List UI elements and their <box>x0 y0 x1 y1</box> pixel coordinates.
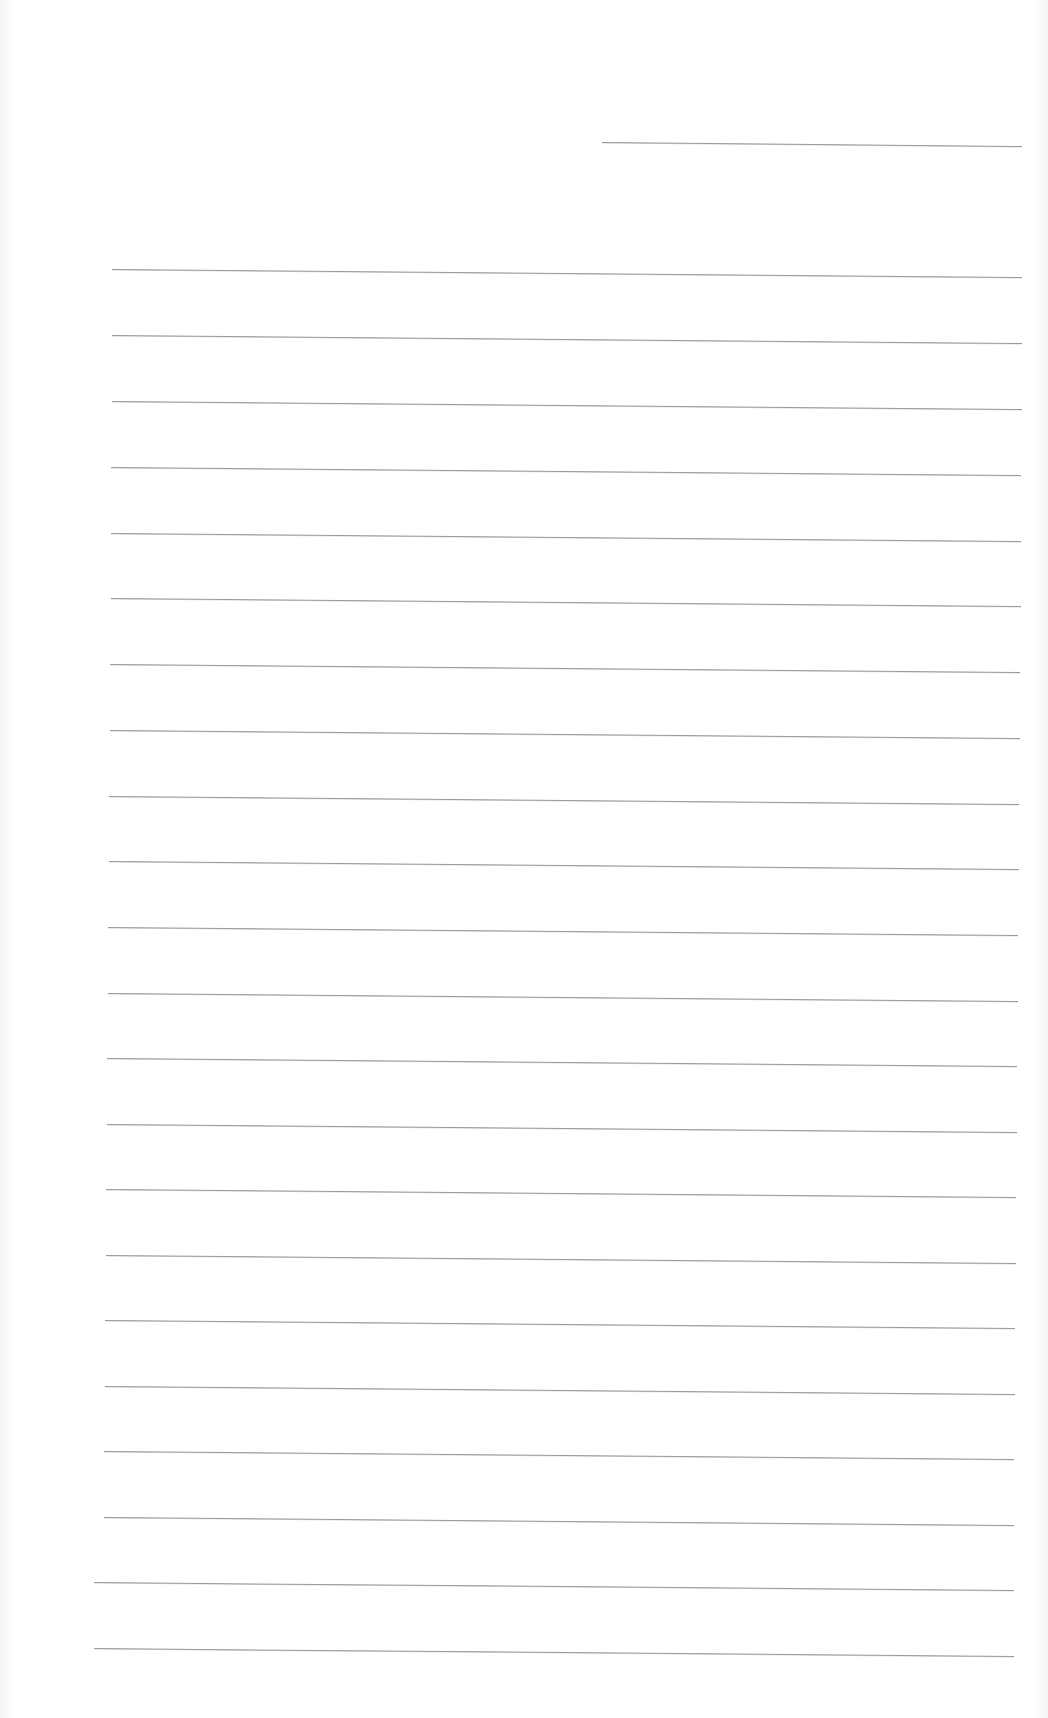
ruled-line <box>112 335 1022 344</box>
ruled-line <box>111 533 1021 542</box>
ruled-line <box>105 1320 1015 1329</box>
ruled-line <box>112 401 1022 410</box>
ruled-line <box>106 1255 1016 1264</box>
ruled-line <box>109 861 1019 870</box>
ruled-line <box>111 598 1021 607</box>
header-line <box>602 142 1022 147</box>
ruled-line <box>112 269 1022 278</box>
ruled-line <box>107 1058 1017 1067</box>
ruled-line <box>104 1451 1014 1460</box>
ruled-line <box>110 664 1020 673</box>
ruled-line <box>94 1648 1014 1657</box>
ruled-line <box>104 1517 1014 1526</box>
ruled-line <box>111 467 1021 476</box>
ruled-line <box>106 1189 1016 1198</box>
ruled-line <box>108 927 1018 936</box>
ruled-line <box>105 1386 1015 1395</box>
ruled-line <box>110 730 1020 739</box>
ruled-line <box>94 1582 1014 1591</box>
ruled-line <box>109 796 1019 805</box>
ruled-line <box>107 1124 1017 1133</box>
ruled-line <box>108 993 1018 1002</box>
lined-paper-page <box>0 0 1048 1718</box>
